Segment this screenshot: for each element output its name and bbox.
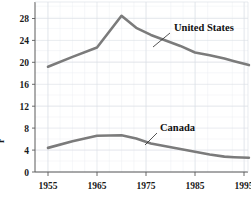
chart-canvas: 28 24 20 16 12 8 4 0 1955 1965 1975 1985…: [0, 0, 251, 199]
y-axis-title: r: [0, 138, 6, 143]
x-tick-label: 1975: [137, 181, 156, 191]
y-axis-labels: 28 24 20 16 12 8 4 0: [20, 14, 30, 178]
line-chart: 28 24 20 16 12 8 4 0 1955 1965 1975 1985…: [0, 0, 251, 199]
x-tick-label: 1985: [186, 181, 205, 191]
y-tick-label: 8: [24, 124, 29, 134]
y-tick-label: 12: [20, 102, 30, 112]
y-tick-label: 24: [20, 36, 30, 46]
y-tick-label: 16: [20, 80, 30, 90]
y-tick-label: 0: [24, 168, 29, 178]
x-tick-label: 1995: [235, 181, 252, 191]
series-label-united-states: United States: [174, 22, 234, 33]
y-tick-label: 28: [20, 14, 30, 24]
x-axis-labels: 1955 1965 1975 1985 1995: [39, 181, 252, 191]
y-tick-label: 4: [24, 146, 29, 156]
series-label-canada: Canada: [160, 122, 196, 133]
x-tickmarks: [48, 172, 244, 176]
x-tick-label: 1955: [39, 181, 58, 191]
y-tick-label: 20: [20, 58, 30, 68]
x-tick-label: 1965: [88, 181, 107, 191]
